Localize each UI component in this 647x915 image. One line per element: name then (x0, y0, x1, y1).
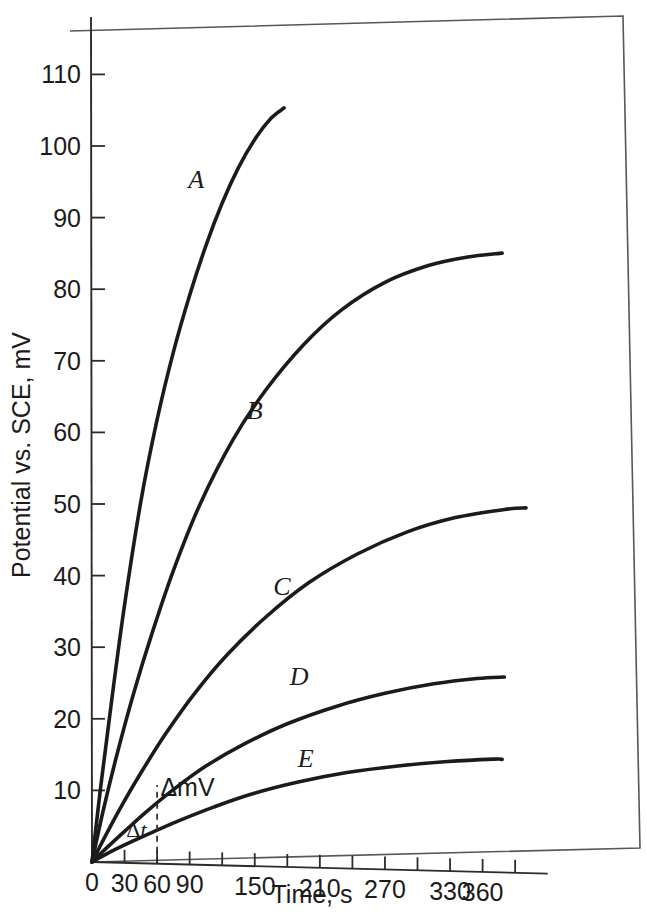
series-line-e (92, 759, 502, 862)
y-tick-label-10: 10 (53, 776, 81, 804)
y-tick-label-110: 110 (41, 60, 81, 88)
x-tick-label-90: 90 (176, 870, 204, 898)
annotation-delta-t: Δt (126, 817, 147, 842)
y-tick-label-100: 100 (39, 132, 81, 160)
x-tick-label-150: 150 (234, 872, 276, 900)
y-axis-title: Potential vs. SCE, mV (7, 332, 35, 578)
y-axis: 102030405060708090100110 (39, 17, 105, 862)
series-label-d: D (289, 662, 309, 691)
chart-annotations: ΔtΔmV (126, 773, 215, 863)
y-tick-label-60: 60 (53, 418, 81, 446)
y-tick-label-30: 30 (53, 633, 81, 661)
potential-vs-time-chart: 102030405060708090100110 030609015021027… (0, 0, 647, 915)
y-tick-label-80: 80 (53, 275, 81, 303)
series-label-c: C (273, 572, 291, 601)
series-line-c (92, 508, 526, 862)
series-label-e: E (297, 744, 314, 773)
series-label-b: B (247, 396, 263, 425)
y-tick-label-90: 90 (53, 204, 81, 232)
x-tick-label-270: 270 (364, 875, 406, 903)
series-label-a: A (186, 165, 204, 194)
x-tick-label-0: 0 (85, 868, 99, 896)
y-tick-label-70: 70 (53, 347, 81, 375)
x-tick-label-60: 60 (143, 870, 171, 898)
annotation-delta-mv: ΔmV (160, 773, 215, 801)
x-tick-label-30: 30 (111, 869, 139, 897)
x-axis-title: Time, s (271, 880, 352, 908)
series-line-a (92, 108, 284, 862)
y-tick-label-40: 40 (53, 562, 81, 590)
y-tick-label-50: 50 (53, 490, 81, 518)
plot-frame (70, 16, 640, 862)
figure-root: 102030405060708090100110 030609015021027… (0, 0, 647, 915)
y-tick-label-20: 20 (53, 705, 81, 733)
x-tick-label-360: 360 (462, 878, 504, 906)
